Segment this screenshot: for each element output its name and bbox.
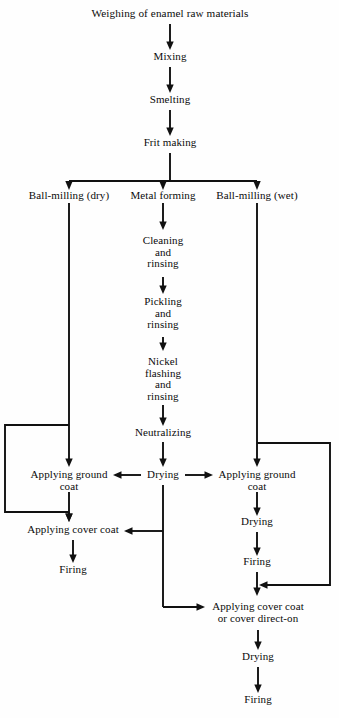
connector-metalforming-to-cleaning — [159, 203, 166, 230]
connector-smelting-to-frit — [166, 110, 173, 136]
node-applying-cover-coat-left: Applying cover coat — [27, 524, 119, 536]
connector-balldry-to-groundcoat-left — [65, 203, 72, 467]
connector-covercoat-left-to-firing-left — [69, 540, 76, 563]
node-weighing: Weighing of enamel raw materials — [92, 8, 249, 20]
connector-neutralizing-to-drying — [159, 442, 166, 467]
node-drying-right: Drying — [241, 516, 273, 528]
connector-drying-to-coverbottom — [163, 603, 205, 610]
connector-weighing-to-mixing — [166, 24, 173, 50]
node-ball-milling-dry: Ball-milling (dry) — [29, 190, 109, 202]
node-drying-center: Drying — [147, 469, 179, 481]
connector-groundcoat-right-to-drying-right — [253, 492, 260, 516]
node-mixing: Mixing — [154, 51, 187, 63]
node-frit-making: Frit making — [144, 137, 197, 149]
connector-dryingbottom-to-firingbottom — [254, 667, 261, 693]
node-applying-cover-coat-bottom: Applying cover coat or cover direct-on — [212, 601, 304, 624]
node-firing-right: Firing — [243, 556, 271, 568]
node-neutralizing: Neutralizing — [135, 427, 191, 439]
connector-coverbottom-to-dryingbottom — [254, 630, 261, 650]
node-metal-forming: Metal forming — [130, 190, 195, 202]
connector-groundcoat-left-to-covercoat-left — [65, 492, 72, 522]
node-cleaning-rinsing: Cleaning and rinsing — [143, 235, 184, 270]
node-drying-bottom: Drying — [242, 651, 274, 663]
connector-drying-to-covercoat-left — [124, 527, 163, 534]
connector-mixing-to-smelting — [166, 67, 173, 93]
connector-frit-split-bar — [65, 153, 260, 190]
connector-cleaning-to-pickling — [159, 277, 166, 294]
node-ball-milling-wet: Ball-milling (wet) — [216, 190, 298, 202]
node-applying-ground-coat-left: Applying ground coat — [31, 469, 108, 492]
node-applying-ground-coat-right: Applying ground coat — [219, 469, 296, 492]
connector-drying-to-groundcoat-left — [113, 471, 141, 478]
node-firing-left: Firing — [59, 564, 87, 576]
node-firing-bottom: Firing — [244, 694, 272, 706]
node-pickling-rinsing: Pickling and rinsing — [144, 296, 181, 331]
connector-firing-right-to-coverbottom — [253, 572, 260, 596]
connector-pickling-to-nickel — [159, 337, 166, 351]
connector-nickel-to-neutralizing — [159, 405, 166, 426]
connector-ballwet-to-groundcoat-right — [253, 203, 260, 467]
flowchart-canvas: Weighing of enamel raw materials Mixing … — [0, 0, 339, 718]
node-smelting: Smelting — [150, 94, 191, 106]
node-nickel-flashing: Nickel flashing and rinsing — [145, 356, 181, 402]
connector-drying-right-to-firing-right — [253, 532, 260, 556]
connector-drying-to-groundcoat-right — [185, 471, 213, 478]
